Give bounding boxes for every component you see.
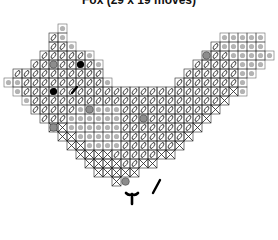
stitch-loop-icon <box>104 88 111 95</box>
shade-dot-icon <box>240 53 245 58</box>
cross-stitch-icon <box>94 150 103 159</box>
shade-dot-icon <box>258 53 263 58</box>
stitch-loop-icon <box>32 61 39 68</box>
stitch-loop-icon <box>86 88 93 95</box>
shade-dot-icon <box>105 143 110 148</box>
stitch-loop-icon <box>131 115 138 122</box>
stitch-loop-icon <box>41 61 48 68</box>
shade-dot-icon <box>240 71 245 76</box>
stitch-loop-icon <box>203 70 210 77</box>
stitch-loop-icon <box>167 124 174 131</box>
stitch-loop-icon <box>131 151 138 158</box>
cross-stitch-icon <box>112 177 121 186</box>
stitch-loop-icon <box>203 61 210 68</box>
stitch-loop-icon <box>50 52 57 59</box>
shade-dot-icon <box>87 53 92 58</box>
cross-stitch-icon <box>229 87 238 96</box>
stitch-loop-icon <box>158 133 165 140</box>
stitch-loop-icon <box>32 88 39 95</box>
stitch-loop-icon <box>50 70 57 77</box>
shade-dot-icon <box>96 125 101 130</box>
stitch-loop-icon <box>113 151 120 158</box>
stitch-loop-icon <box>131 133 138 140</box>
shade-dot-icon <box>78 134 83 139</box>
stitch-loop-icon <box>176 88 183 95</box>
stitch-loop-icon <box>140 124 147 131</box>
shade-dot-icon <box>258 35 263 40</box>
stitch-loop-icon <box>86 79 93 86</box>
stitch-loop-icon <box>131 106 138 113</box>
shade-dot-icon <box>15 89 20 94</box>
stitch-loop-icon <box>221 52 228 59</box>
stitch-loop-icon <box>41 88 48 95</box>
shade-dot-icon <box>87 116 92 121</box>
stitch-loop-icon <box>194 70 201 77</box>
cross-stitch-icon <box>76 141 85 150</box>
cross-stitch-icon <box>94 159 103 168</box>
stitch-loop-icon <box>68 79 75 86</box>
stitch-loop-icon <box>50 79 57 86</box>
shade-dot-icon <box>78 107 83 112</box>
stitch-loop-icon <box>140 142 147 149</box>
stitch-loop-icon <box>95 97 102 104</box>
cross-stitch-icon <box>175 141 184 150</box>
stitch-loop-icon <box>122 160 129 167</box>
stitch-loop-icon <box>158 106 165 113</box>
stitch-loop-icon <box>212 97 219 104</box>
stitch-loop-icon <box>158 115 165 122</box>
cross-stitch-icon <box>202 114 211 123</box>
stitch-loop-icon <box>140 106 147 113</box>
stitch-loop-icon <box>158 124 165 131</box>
stitch-loop-icon <box>23 88 30 95</box>
shade-dot-icon <box>114 125 119 130</box>
stitch-loop-icon <box>131 88 138 95</box>
shade-dot-icon <box>240 62 245 67</box>
shade-dot-icon <box>249 71 254 76</box>
cross-stitch-icon <box>211 105 220 114</box>
cross-stitch-icon <box>166 150 175 159</box>
stitch-loop-icon <box>41 70 48 77</box>
stitch-loop-icon <box>140 151 147 158</box>
shade-dot-icon <box>114 134 119 139</box>
gray-marker-icon <box>140 115 148 123</box>
stitch-loop-icon <box>68 52 75 59</box>
shade-dot-icon <box>249 53 254 58</box>
stitch-loop-icon <box>95 79 102 86</box>
stitch-loop-icon <box>185 70 192 77</box>
stitch-loop-icon <box>122 142 129 149</box>
stitch-loop-icon <box>176 106 183 113</box>
shade-dot-icon <box>78 125 83 130</box>
stitch-loop-icon <box>68 97 75 104</box>
stitch-loop-icon <box>140 133 147 140</box>
stitch-loop-icon <box>203 97 210 104</box>
shade-dot-icon <box>114 116 119 121</box>
stitch-loop-icon <box>158 142 165 149</box>
shade-dot-icon <box>240 80 245 85</box>
stitch-loop-icon <box>77 70 84 77</box>
stitch-loop-icon <box>230 70 237 77</box>
shade-dot-icon <box>87 143 92 148</box>
stitch-loop-icon <box>149 88 156 95</box>
stitch-loop-icon <box>167 88 174 95</box>
cross-stitch-icon <box>58 123 67 132</box>
shade-dot-icon <box>240 35 245 40</box>
stitch-loop-icon <box>59 88 66 95</box>
shade-dot-icon <box>231 53 236 58</box>
stitch-loop-icon <box>41 79 48 86</box>
stitch-loop-icon <box>221 70 228 77</box>
stitch-loop-icon <box>23 79 30 86</box>
stitch-loop-icon <box>122 97 129 104</box>
stitch-loop-icon <box>59 52 66 59</box>
stitch-loop-icon <box>86 70 93 77</box>
cross-stitch-icon <box>184 132 193 141</box>
stitch-loop-icon <box>203 79 210 86</box>
stitch-loop-icon <box>167 142 174 149</box>
stitch-loop-icon <box>149 97 156 104</box>
stitch-loop-icon <box>176 115 183 122</box>
stitch-loop-icon <box>68 61 75 68</box>
stitch-loop-icon <box>86 61 93 68</box>
stitch-loop-icon <box>113 88 120 95</box>
stitch-loop-icon <box>167 97 174 104</box>
shade-dot-icon <box>240 89 245 94</box>
stitch-loop-icon <box>212 61 219 68</box>
